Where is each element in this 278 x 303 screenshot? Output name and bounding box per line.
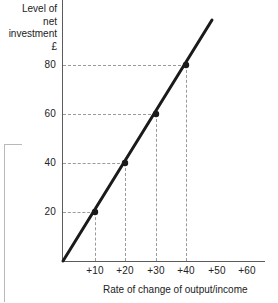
x-axis-title: Rate of change of output/income	[103, 284, 278, 295]
investment-line	[63, 20, 212, 261]
data-point-40-80	[183, 62, 189, 68]
data-point-10-20	[92, 209, 98, 215]
data-point-30-60	[153, 111, 159, 117]
chart-screenshot: Level of net investment £ 80 60 40 20 +1…	[0, 0, 278, 303]
data-point-20-40	[122, 160, 128, 166]
series-layer	[0, 0, 278, 303]
plot-area: Level of net investment £ 80 60 40 20 +1…	[0, 0, 278, 303]
